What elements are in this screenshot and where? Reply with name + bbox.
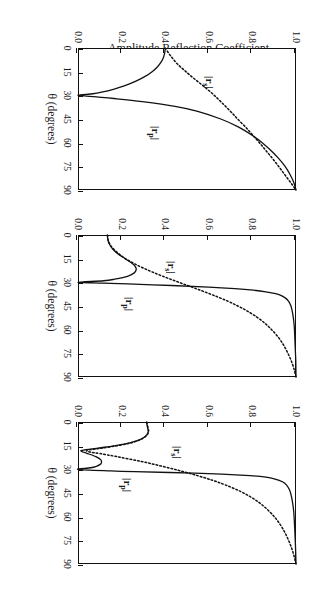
y-tick-label: 0.0 bbox=[73, 205, 83, 230]
panel-a-rs-curve bbox=[165, 48, 296, 190]
panel-a-rp-curve bbox=[78, 48, 296, 190]
y-tick-label: 1.0 bbox=[291, 18, 301, 43]
x-tick-label: 0 bbox=[62, 46, 72, 51]
panel-c: (c) Air Gap = 400 nm |rp| |rs| θ (degree… bbox=[2, 392, 302, 570]
y-tick-label: 0.2 bbox=[117, 18, 127, 43]
y-tick-label: 0.8 bbox=[247, 205, 257, 230]
panel-a-x-axis-title: θ (degrees) bbox=[46, 48, 58, 190]
panel-b-rs-label: |rs| bbox=[163, 261, 178, 274]
x-tick-label: 30 bbox=[62, 91, 72, 101]
panel-c-rp-curve bbox=[77, 422, 296, 564]
x-tick-label: 90 bbox=[62, 372, 72, 382]
y-tick-label: 1.0 bbox=[291, 205, 301, 230]
x-tick-label: 60 bbox=[62, 325, 72, 335]
reflection-coefficient-figure: Amplitude Reflection Coefficient (a) Air… bbox=[0, 0, 316, 604]
y-tick-label: 0.6 bbox=[204, 205, 214, 230]
y-tick-label: 0.2 bbox=[117, 205, 127, 230]
y-tick bbox=[76, 422, 77, 427]
panel-b: (b) Air Gap = 300 nm |rp| |rs| θ (degree… bbox=[2, 205, 302, 383]
x-tick-label: 15 bbox=[62, 441, 72, 451]
y-tick bbox=[76, 48, 77, 53]
x-tick-label: 75 bbox=[62, 536, 72, 546]
panel-c-curves bbox=[78, 422, 296, 564]
y-tick-label: 1.0 bbox=[291, 392, 301, 417]
x-tick bbox=[78, 191, 83, 192]
y-tick-label: 0.4 bbox=[160, 205, 170, 230]
panel-b-x-axis-title: θ (degrees) bbox=[46, 235, 58, 377]
x-tick-label: 15 bbox=[62, 67, 72, 77]
panel-b-rp-curve bbox=[78, 235, 296, 377]
y-tick-label: 0.2 bbox=[117, 392, 127, 417]
x-tick-label: 30 bbox=[62, 278, 72, 288]
y-tick-label: 0.0 bbox=[73, 18, 83, 43]
x-tick-label: 75 bbox=[62, 162, 72, 172]
y-tick-label: 0.8 bbox=[247, 392, 257, 417]
x-tick-label: 60 bbox=[62, 138, 72, 148]
x-tick-label: 90 bbox=[62, 185, 72, 195]
y-tick-label: 0.6 bbox=[204, 18, 214, 43]
y-tick-label: 0.6 bbox=[204, 392, 214, 417]
x-tick-label: 0 bbox=[62, 420, 72, 425]
y-tick bbox=[76, 235, 77, 240]
x-tick bbox=[78, 565, 83, 566]
x-tick-label: 15 bbox=[62, 254, 72, 264]
x-tick-label: 0 bbox=[62, 233, 72, 238]
x-tick-label: 45 bbox=[62, 488, 72, 498]
figure-rotator: Amplitude Reflection Coefficient (a) Air… bbox=[0, 0, 316, 604]
y-tick-label: 0.4 bbox=[160, 18, 170, 43]
y-tick-label: 0.4 bbox=[160, 392, 170, 417]
x-tick bbox=[78, 378, 83, 379]
x-tick-label: 90 bbox=[62, 559, 72, 569]
panel-b-curves bbox=[78, 235, 296, 377]
x-tick-label: 75 bbox=[62, 349, 72, 359]
panel-b-rp-label: |rp| bbox=[121, 297, 136, 311]
panel-a-rs-label: |rs| bbox=[201, 76, 216, 89]
panel-c-rp-label: |rp| bbox=[119, 478, 134, 492]
panel-c-rs-label: |rs| bbox=[169, 446, 184, 459]
panel-a: (a) Air Gap = 100 nm |rp| |rs| θ (degree… bbox=[2, 18, 302, 196]
panel-a-curves bbox=[78, 48, 296, 190]
y-tick-label: 0.8 bbox=[247, 18, 257, 43]
x-tick-label: 45 bbox=[62, 114, 72, 124]
y-tick-label: 0.0 bbox=[73, 392, 83, 417]
panel-c-x-axis-title: θ (degrees) bbox=[46, 422, 58, 564]
x-tick-label: 60 bbox=[62, 512, 72, 522]
x-tick-label: 45 bbox=[62, 301, 72, 311]
panel-a-rp-label: |rp| bbox=[147, 126, 162, 140]
x-tick-label: 30 bbox=[62, 465, 72, 475]
panel-c-rs-curve bbox=[86, 422, 296, 564]
